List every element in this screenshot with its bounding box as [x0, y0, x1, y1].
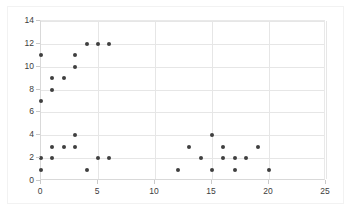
data-point	[233, 168, 237, 172]
data-point	[107, 156, 111, 160]
data-point	[187, 145, 191, 149]
data-point	[221, 156, 225, 160]
x-tick-label-20: 20	[253, 187, 283, 196]
y-tick-label-4: 4	[8, 130, 34, 139]
data-point	[256, 145, 260, 149]
data-point	[73, 65, 77, 69]
data-point	[221, 145, 225, 149]
data-point	[244, 156, 248, 160]
x-tickmark-20	[268, 180, 269, 184]
x-tickmark-15	[211, 180, 212, 184]
data-point	[267, 168, 271, 172]
gridline-y-2	[41, 158, 324, 159]
y-tickmark-2	[36, 157, 40, 158]
gridline-y-14	[41, 21, 324, 22]
data-point	[73, 53, 77, 57]
gridline-y-8	[41, 90, 324, 91]
data-point	[210, 133, 214, 137]
x-tickmark-5	[97, 180, 98, 184]
y-tick-label-6: 6	[8, 107, 34, 116]
gridline-x-20	[269, 21, 270, 179]
data-point	[96, 42, 100, 46]
data-point	[107, 42, 111, 46]
y-tickmark-14	[36, 20, 40, 21]
y-tick-label-12: 12	[8, 39, 34, 48]
data-point	[62, 145, 66, 149]
x-tick-label-0: 0	[25, 187, 55, 196]
x-tickmark-0	[40, 180, 41, 184]
data-point	[73, 145, 77, 149]
y-tickmark-10	[36, 66, 40, 67]
gridline-y-10	[41, 67, 324, 68]
gridline-x-15	[212, 21, 213, 179]
data-point	[39, 53, 43, 57]
y-tick-label-0: 0	[8, 176, 34, 185]
data-point	[233, 156, 237, 160]
data-point	[39, 168, 43, 172]
gridline-y-6	[41, 112, 324, 113]
scatter-chart: 02468101214 0510152025	[0, 0, 352, 219]
data-point	[176, 168, 180, 172]
x-tick-label-5: 5	[82, 187, 112, 196]
data-point	[96, 156, 100, 160]
gridline-y-12	[41, 44, 324, 45]
y-tick-label-8: 8	[8, 85, 34, 94]
data-point	[199, 156, 203, 160]
x-tick-label-10: 10	[139, 187, 169, 196]
gridline-y-4	[41, 135, 324, 136]
data-point	[62, 76, 66, 80]
gridline-x-10	[155, 21, 156, 179]
y-tickmark-12	[36, 43, 40, 44]
data-point	[50, 88, 54, 92]
y-tick-label-2: 2	[8, 153, 34, 162]
data-point	[39, 99, 43, 103]
data-point	[210, 168, 214, 172]
gridline-x-25	[326, 21, 327, 179]
y-tickmark-4	[36, 134, 40, 135]
data-point	[73, 133, 77, 137]
y-tickmark-8	[36, 89, 40, 90]
x-tickmark-25	[325, 180, 326, 184]
x-tick-label-15: 15	[196, 187, 226, 196]
y-tickmark-6	[36, 111, 40, 112]
x-tick-label-25: 25	[310, 187, 340, 196]
plot-area	[40, 20, 325, 180]
y-tick-label-14: 14	[8, 16, 34, 25]
data-point	[50, 156, 54, 160]
x-tickmark-10	[154, 180, 155, 184]
y-tick-label-10: 10	[8, 62, 34, 71]
data-point	[50, 76, 54, 80]
data-point	[85, 42, 89, 46]
data-point	[50, 145, 54, 149]
data-point	[85, 168, 89, 172]
